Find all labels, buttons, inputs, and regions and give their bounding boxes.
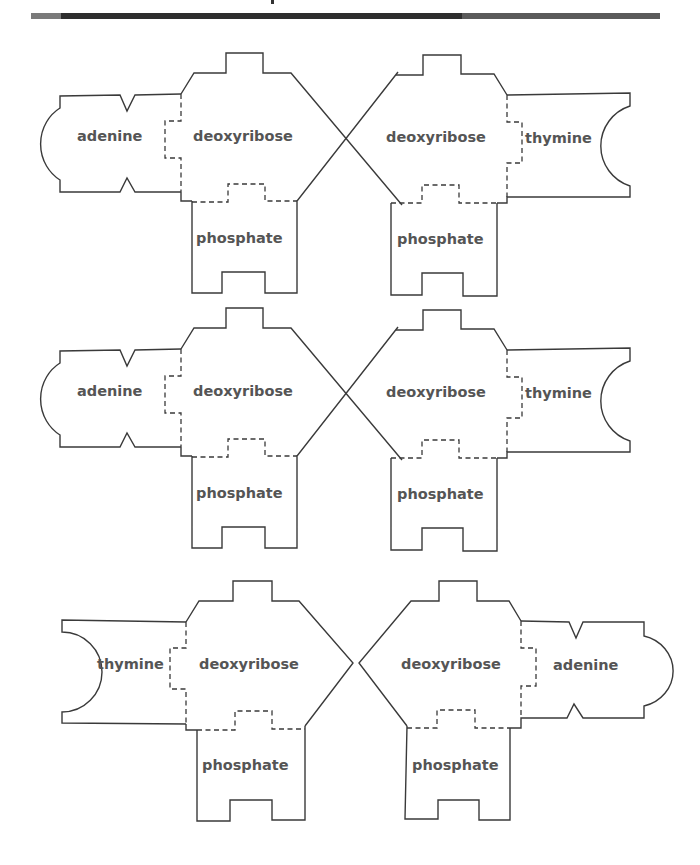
thymine-piece-outline[interactable] xyxy=(62,620,186,724)
base-label: adenine xyxy=(77,383,143,399)
phosphate-piece-outline[interactable] xyxy=(391,458,497,551)
phosphate-sugar-join-dashed xyxy=(197,711,305,730)
row-1: adenine deoxyribose phosphate deoxyribos… xyxy=(41,53,630,296)
adenine-sugar-join-dashed xyxy=(165,94,181,192)
phosphate-label: phosphate xyxy=(397,486,484,502)
nucleotide-cutout-sheet: adenine deoxyribose phosphate deoxyribos… xyxy=(0,0,700,865)
sugar-label: deoxyribose xyxy=(386,384,486,400)
thymine-sugar-join-dashed xyxy=(507,350,522,452)
phosphate-label: phosphate xyxy=(412,757,499,773)
adenine-piece-outline[interactable] xyxy=(510,621,673,728)
phosphate-label: phosphate xyxy=(196,230,283,246)
adenine-sugar-join-dashed xyxy=(521,621,536,718)
thymine-sugar-join-dashed xyxy=(170,622,186,724)
deoxyribose-left-join xyxy=(186,724,197,730)
row-2-right-nucleotide: deoxyribose thymine phosphate xyxy=(386,310,630,551)
row-3-left-nucleotide: thymine deoxyribose phosphate xyxy=(62,581,353,821)
deoxyribose-left-join xyxy=(181,447,192,456)
sugar-label: deoxyribose xyxy=(199,656,299,672)
phosphate-sugar-join-dashed xyxy=(192,184,297,202)
base-label: adenine xyxy=(77,128,143,144)
row-3: thymine deoxyribose phosphate deoxyribos… xyxy=(62,581,673,821)
row-1-left-nucleotide: adenine deoxyribose phosphate xyxy=(41,53,402,293)
row-2-left-nucleotide: adenine deoxyribose phosphate xyxy=(41,308,402,548)
thymine-piece-outline[interactable] xyxy=(497,348,630,458)
phosphate-label: phosphate xyxy=(196,485,283,501)
sugar-label: deoxyribose xyxy=(193,128,293,144)
phosphate-sugar-join-dashed xyxy=(192,439,297,457)
row-1-right-nucleotide: deoxyribose thymine phosphate xyxy=(386,55,630,296)
phosphate-sugar-join-dashed xyxy=(391,185,497,203)
deoxyribose-piece-outline[interactable] xyxy=(359,581,521,726)
thymine-piece-outline[interactable] xyxy=(497,93,630,203)
base-label: thymine xyxy=(525,130,592,146)
deoxyribose-piece-outline[interactable] xyxy=(396,310,507,350)
phosphate-piece-outline[interactable] xyxy=(405,726,510,820)
thymine-sugar-join-dashed xyxy=(507,95,522,197)
sugar-label: deoxyribose xyxy=(386,129,486,145)
row-2: adenine deoxyribose phosphate deoxyribos… xyxy=(41,308,630,551)
phosphate-piece-outline[interactable] xyxy=(197,726,305,821)
phosphate-piece-outline[interactable] xyxy=(192,72,398,293)
base-label: thymine xyxy=(525,385,592,401)
deoxyribose-piece-outline[interactable] xyxy=(186,581,353,726)
base-label: adenine xyxy=(553,657,619,673)
deoxyribose-left-join xyxy=(181,192,192,201)
sugar-label: deoxyribose xyxy=(401,656,501,672)
deoxyribose-piece-outline[interactable] xyxy=(396,55,507,95)
adenine-sugar-join-dashed xyxy=(165,349,181,447)
nucleotide-diagram: adenine deoxyribose phosphate deoxyribos… xyxy=(0,0,700,865)
phosphate-piece-outline[interactable] xyxy=(391,203,497,296)
phosphate-label: phosphate xyxy=(397,231,484,247)
row-3-right-nucleotide: deoxyribose adenine phosphate xyxy=(359,581,673,820)
sugar-label: deoxyribose xyxy=(193,383,293,399)
phosphate-sugar-join-dashed xyxy=(391,440,497,458)
phosphate-piece-outline[interactable] xyxy=(192,327,398,548)
phosphate-label: phosphate xyxy=(202,757,289,773)
phosphate-sugar-join-dashed xyxy=(407,710,510,728)
base-label: thymine xyxy=(97,656,164,672)
